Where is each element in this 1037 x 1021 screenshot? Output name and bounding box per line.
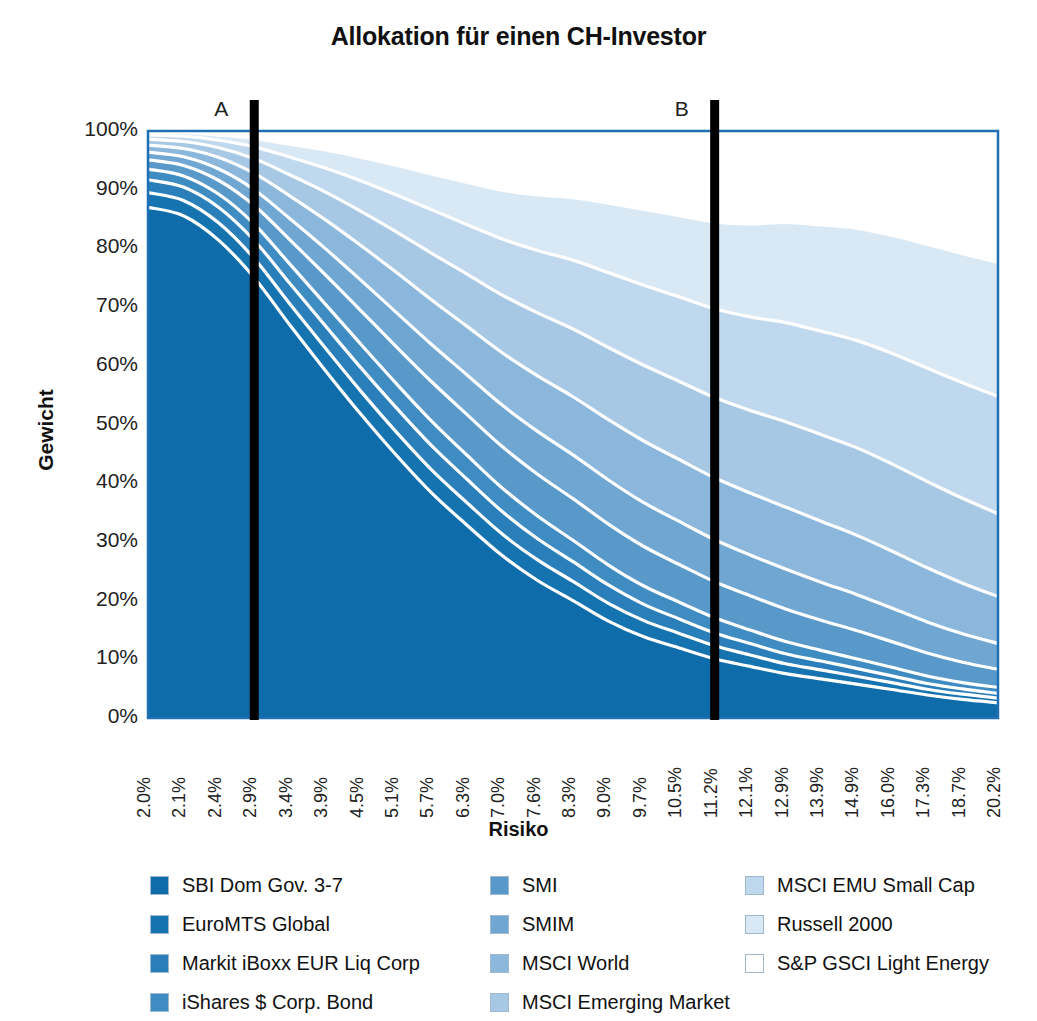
legend-item-label: Russell 2000: [777, 913, 893, 936]
legend-column-1: SBI Dom Gov. 3-7EuroMTS GlobalMarkit iBo…: [150, 866, 480, 1021]
legend-item[interactable]: SBI Dom Gov. 3-7: [150, 866, 480, 905]
legend-item-label: S&P GSCI Light Energy: [777, 952, 989, 975]
legend-item-label: iShares $ Corp. Bond: [182, 991, 373, 1014]
legend-item-label: MSCI World: [522, 952, 629, 975]
legend-swatch-icon: [150, 915, 169, 934]
legend-column-2: SMISMIMMSCI WorldMSCI Emerging Market: [490, 866, 730, 1021]
legend-swatch-icon: [490, 954, 509, 973]
legend-item[interactable]: SMIM: [490, 905, 730, 944]
legend-swatch-icon: [150, 954, 169, 973]
legend-item[interactable]: Russell 2000: [745, 905, 1037, 944]
legend-item-label: MSCI Emerging Market: [522, 991, 730, 1014]
legend-item-label: Markit iBoxx EUR Liq Corp: [182, 952, 420, 975]
legend-item[interactable]: SMI: [490, 866, 730, 905]
legend-swatch-icon: [745, 954, 764, 973]
legend-swatch-icon: [490, 876, 509, 895]
legend-item-label: SBI Dom Gov. 3-7: [182, 874, 343, 897]
legend-item-label: EuroMTS Global: [182, 913, 330, 936]
legend-item[interactable]: EuroMTS Global: [150, 905, 480, 944]
legend-column-3: MSCI EMU Small CapRussell 2000S&P GSCI L…: [745, 866, 1037, 983]
legend-swatch-icon: [745, 876, 764, 895]
legend-item[interactable]: MSCI EMU Small Cap: [745, 866, 1037, 905]
legend-item[interactable]: Markit iBoxx EUR Liq Corp: [150, 944, 480, 983]
legend-item[interactable]: S&P GSCI Light Energy: [745, 944, 1037, 983]
legend-item[interactable]: MSCI Emerging Market: [490, 983, 730, 1021]
legend-item-label: MSCI EMU Small Cap: [777, 874, 975, 897]
legend-swatch-icon: [150, 993, 169, 1012]
legend-swatch-icon: [490, 993, 509, 1012]
legend-swatch-icon: [745, 915, 764, 934]
legend-item-label: SMIM: [522, 913, 574, 936]
legend-swatch-icon: [490, 915, 509, 934]
legend-item-label: SMI: [522, 874, 558, 897]
legend-item[interactable]: MSCI World: [490, 944, 730, 983]
legend-swatch-icon: [150, 876, 169, 895]
legend-item[interactable]: iShares $ Corp. Bond: [150, 983, 480, 1021]
